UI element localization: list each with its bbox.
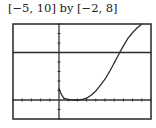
- function-curve-series: [59, 24, 142, 100]
- calculator-graph: [0, 0, 156, 128]
- axes: [13, 24, 151, 119]
- graph-frame: [13, 24, 151, 119]
- plot-series: [13, 24, 151, 100]
